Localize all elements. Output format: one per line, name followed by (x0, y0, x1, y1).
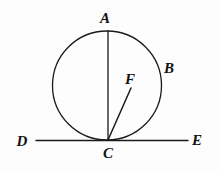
point-label-c: C (103, 146, 113, 161)
line-segment-cf (108, 88, 131, 140)
circle-shape (53, 31, 162, 140)
point-label-b: B (164, 61, 174, 76)
point-label-a: A (100, 11, 110, 26)
geometry-figure: A B F C D E (0, 0, 218, 172)
point-label-d: D (16, 134, 27, 149)
point-label-f: F (125, 72, 135, 87)
point-label-e: E (192, 133, 202, 148)
